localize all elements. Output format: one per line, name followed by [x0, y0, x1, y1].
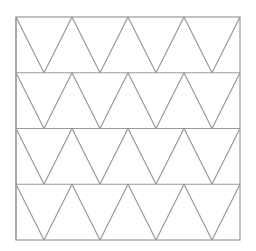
diagonal-line: [184, 17, 212, 73]
diagonal-line: [128, 184, 156, 240]
diagonal-line: [156, 184, 184, 240]
grid-lines: [16, 17, 240, 240]
diagonal-line: [44, 73, 72, 129]
diagonal-line: [100, 129, 128, 185]
diagonal-line: [212, 73, 240, 129]
diagonal-line: [72, 17, 100, 73]
diagonal-line: [128, 129, 156, 185]
diagonal-line: [184, 73, 212, 129]
diagonal-line: [44, 17, 72, 73]
diagonal-line: [100, 17, 128, 73]
diagonal-line: [72, 73, 100, 129]
diagonal-line: [72, 129, 100, 185]
diagonal-line: [100, 184, 128, 240]
diagonal-line: [212, 129, 240, 185]
diagonal-line: [212, 17, 240, 73]
diagonal-line: [16, 184, 44, 240]
diagonal-line: [156, 17, 184, 73]
diagonal-line: [44, 129, 72, 185]
diagonal-line: [44, 184, 72, 240]
diagonal-line: [212, 184, 240, 240]
triangle-grid-diagram: [0, 0, 256, 251]
diagonal-line: [16, 129, 44, 185]
diagonal-line: [128, 73, 156, 129]
diagonal-line: [184, 184, 212, 240]
diagonal-line: [156, 129, 184, 185]
diagonal-line: [100, 73, 128, 129]
diagonal-line: [72, 184, 100, 240]
diagonal-line: [16, 17, 44, 73]
diagonal-line: [156, 73, 184, 129]
diagonal-line: [16, 73, 44, 129]
diagonal-line: [128, 17, 156, 73]
diagonal-line: [184, 129, 212, 185]
